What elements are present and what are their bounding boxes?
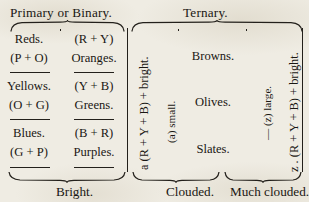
- rule-primary-1: [10, 119, 50, 120]
- brace-top-primary-binary: [10, 20, 125, 32]
- vertical-label-clouded-formula: a (R + Y + B) + bright.: [138, 56, 150, 170]
- brace-bottom-much-clouded: [224, 172, 302, 183]
- binary-row-2-formula: (B + R): [63, 127, 125, 140]
- binary-row-0-formula: (R + Y): [63, 33, 125, 46]
- rule-binary-2: [74, 167, 114, 168]
- primary-row-2-name: Blues.: [0, 127, 58, 140]
- binary-row-2-name: Purples.: [63, 146, 125, 159]
- ternary-word-2: Slates.: [181, 142, 245, 157]
- divider-ternary-block-right-edge: [302, 28, 303, 172]
- divider-clouded-dotted: [178, 29, 179, 171]
- divider-much-clouded-dotted: [246, 29, 247, 171]
- rule-primary-2: [10, 167, 50, 168]
- vertical-label-clouded-qualifier: (a) small.: [166, 101, 177, 143]
- bottom-label-clouded: Clouded.: [166, 184, 214, 200]
- binary-row-1-formula: (Y + B): [63, 80, 125, 93]
- ternary-word-0: Browns.: [181, 49, 245, 64]
- divider-primary-binary-dotted: [60, 29, 61, 171]
- header-primary-or-binary: Primary or Binary.: [10, 5, 112, 21]
- binary-row-0-name: Oranges.: [63, 52, 125, 65]
- rule-binary-0: [74, 72, 114, 73]
- rule-primary-0: [10, 72, 50, 73]
- brace-bottom-clouded: [132, 172, 220, 183]
- primary-row-2-formula: (G + P): [0, 146, 58, 159]
- header-ternary: Ternary.: [183, 5, 228, 21]
- bottom-label-bright: Bright.: [56, 184, 93, 200]
- brace-top-ternary: [131, 20, 303, 32]
- binary-row-1-name: Greens.: [63, 99, 125, 112]
- vertical-label-much-clouded-qualifier: — (z) large.: [262, 86, 273, 140]
- primary-row-0-formula: (P + O): [0, 52, 58, 65]
- primary-row-0-name: Reds.: [0, 33, 58, 46]
- color-classification-table: Primary or Binary. Ternary. Reds. (P + O…: [0, 0, 309, 202]
- primary-row-1-name: Yellows.: [0, 80, 58, 93]
- ternary-word-1: Olives.: [181, 95, 245, 110]
- primary-row-1-formula: (O + G): [0, 99, 58, 112]
- vertical-label-much-clouded-formula: z . (R + Y + B) + bright.: [288, 52, 300, 172]
- bottom-label-much-clouded: Much clouded.: [230, 184, 309, 200]
- rule-binary-1: [74, 119, 114, 120]
- divider-left-block-right-edge: [127, 28, 128, 172]
- brace-bottom-bright: [8, 172, 126, 183]
